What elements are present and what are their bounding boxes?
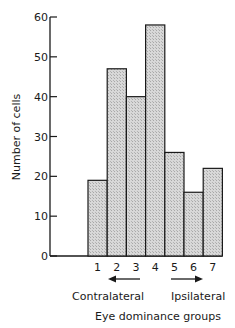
ipsilateral-label: Ipsilateral: [171, 290, 225, 303]
bar: [88, 180, 107, 256]
y-tick-label: 40: [34, 91, 48, 104]
bar: [146, 25, 165, 256]
y-tick-label: 10: [34, 210, 48, 223]
x-axis-title: Eye dominance groups: [95, 310, 221, 323]
y-tick-label: 50: [34, 51, 48, 64]
x-tick-label: 2: [113, 261, 120, 274]
bar: [126, 97, 145, 256]
x-tick-label: 1: [94, 261, 101, 274]
bars: [88, 25, 222, 256]
y-tick-label: 20: [34, 170, 48, 183]
y-tick-label: 60: [34, 11, 48, 24]
y-axis-title: Number of cells: [10, 94, 23, 181]
histogram-chart: 0102030405060 1234567 Number of cells Co…: [0, 0, 235, 328]
bar: [203, 168, 222, 256]
x-tick-label: 3: [133, 261, 140, 274]
bar: [184, 192, 203, 256]
arrow-left-head: [108, 276, 116, 283]
x-tick-label: 7: [209, 261, 216, 274]
ipsilateral-annotation: Ipsilateral: [171, 276, 225, 304]
y-tick-label: 30: [34, 131, 48, 144]
bar: [107, 69, 126, 256]
x-tick-label: 4: [152, 261, 159, 274]
x-tick-labels: 1234567: [94, 261, 216, 274]
arrow-right-head: [195, 276, 203, 283]
contralateral-annotation: Contralateral: [72, 276, 144, 304]
contralateral-label: Contralateral: [72, 290, 144, 303]
y-tick-label: 0: [41, 250, 48, 263]
x-tick-label: 6: [190, 261, 197, 274]
bar: [165, 152, 184, 256]
x-tick-label: 5: [171, 261, 178, 274]
